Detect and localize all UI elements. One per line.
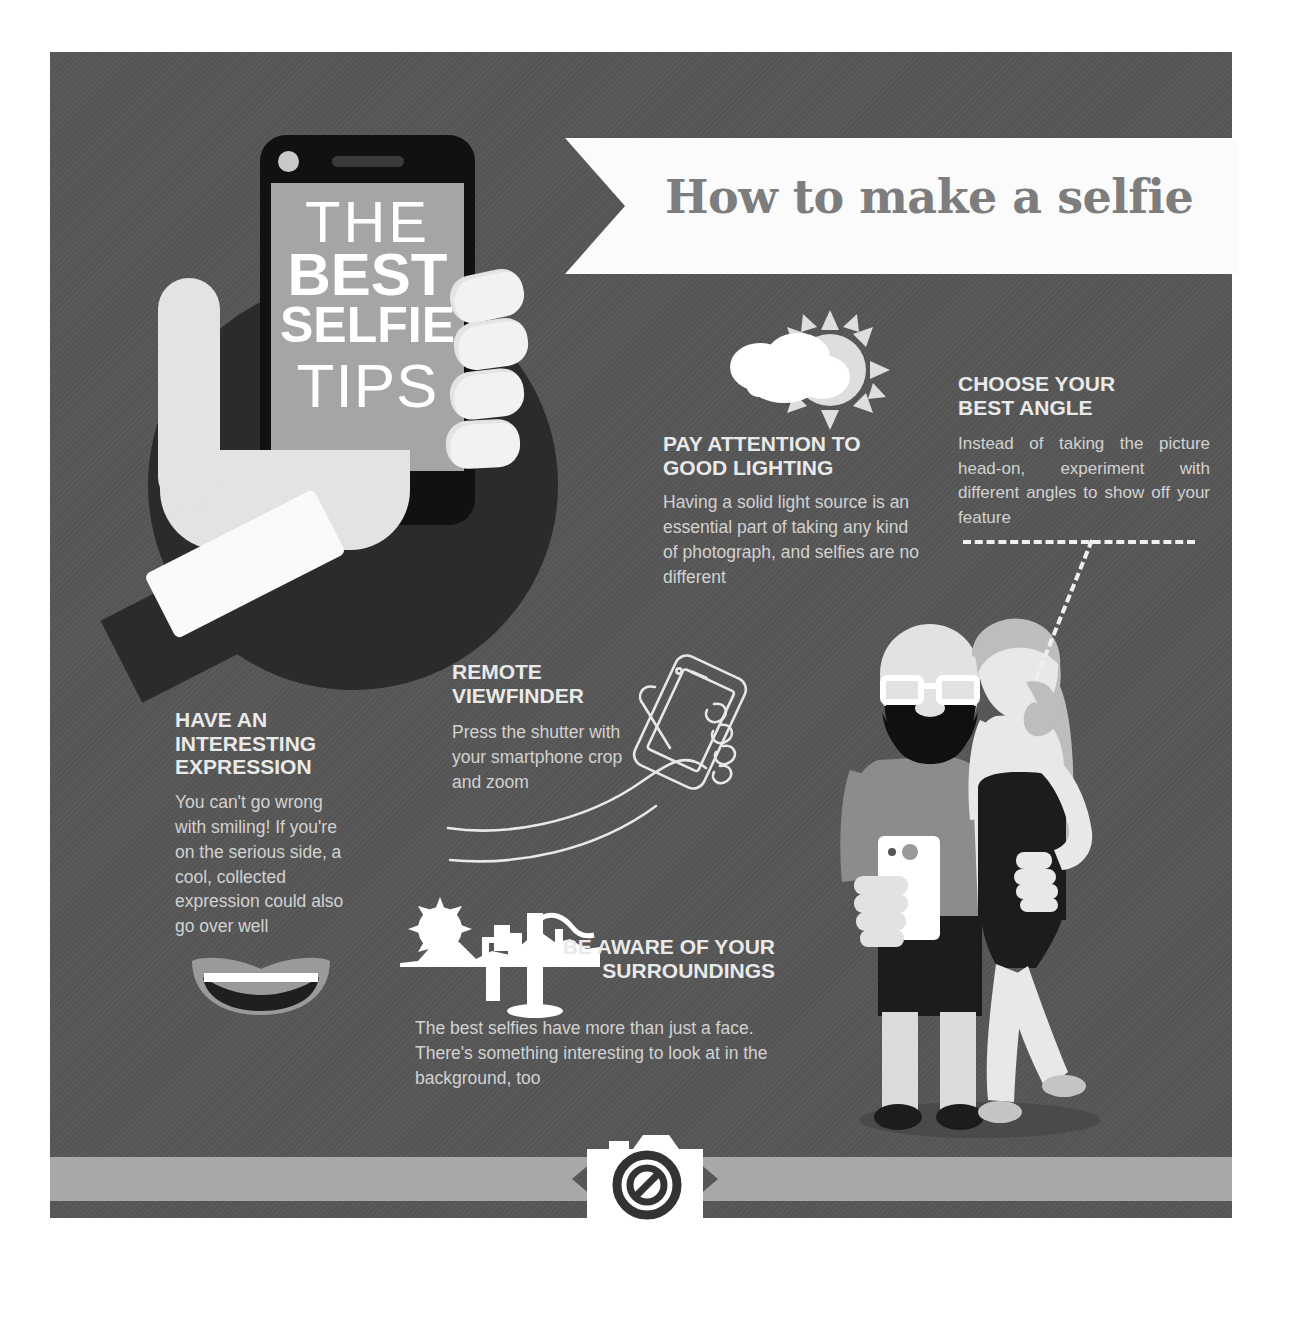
- infographic-canvas: How to make a selfie THE BEST SELFIE TIP…: [0, 0, 1290, 1326]
- woman-in-black-dress-with-ponytail: [968, 618, 1092, 1123]
- surroundings-heading: BE AWARE OF YOUR SURROUNDINGS: [520, 935, 775, 982]
- surroundings-heading-line1: BE AWARE OF YOUR: [563, 935, 775, 958]
- ribbon-left-arrow: [50, 1157, 598, 1201]
- dashed-line-horizontal-icon: [963, 540, 1195, 544]
- lighting-heading-line2: GOOD LIGHTING: [663, 456, 833, 479]
- screen-line-selfie: SELFIE: [271, 300, 464, 350]
- camera-icon: [587, 1127, 703, 1231]
- page-title: How to make a selfie: [665, 170, 1193, 224]
- lighting-heading-line1: PAY ATTENTION TO: [663, 432, 861, 455]
- angle-heading-line2: BEST ANGLE: [958, 396, 1093, 419]
- lighting-heading: PAY ATTENTION TO GOOD LIGHTING: [663, 432, 943, 479]
- ribbon-right-arrow: [692, 1157, 1232, 1201]
- lighting-body: Having a solid light source is an essent…: [663, 490, 925, 589]
- screen-line-tips: TIPS: [271, 355, 464, 417]
- expression-heading-line3: EXPRESSION: [175, 755, 312, 778]
- angle-body: Instead of taking the picture head-on, e…: [958, 432, 1210, 531]
- hand-holding-phone-line-icon: [430, 640, 760, 870]
- surroundings-body: The best selfies have more than just a f…: [415, 1016, 815, 1091]
- angle-heading-line1: CHOOSE YOUR: [958, 372, 1115, 395]
- smiling-mouth-icon: [190, 955, 332, 1017]
- expression-heading: HAVE AN INTERESTING EXPRESSION: [175, 708, 405, 779]
- hero-illustration: THE BEST SELFIE TIPS: [120, 120, 540, 700]
- front-camera-dot: [278, 151, 299, 172]
- expression-heading-line1: HAVE AN: [175, 708, 267, 731]
- couple-taking-selfie-illustration: [820, 620, 1130, 1140]
- expression-body: You can't go wrong with smiling! If you'…: [175, 790, 350, 939]
- earpiece-speaker: [332, 156, 404, 167]
- expression-heading-line2: INTERESTING: [175, 732, 316, 755]
- phone-screen: THE BEST SELFIE TIPS: [271, 183, 464, 471]
- surroundings-heading-line2: SURROUNDINGS: [602, 959, 775, 982]
- finger-4: [445, 418, 521, 470]
- thumb-shape: [158, 278, 220, 508]
- angle-heading: CHOOSE YOUR BEST ANGLE: [958, 372, 1218, 419]
- screen-line-best: BEST: [271, 245, 464, 305]
- cloud-icon: [726, 333, 856, 405]
